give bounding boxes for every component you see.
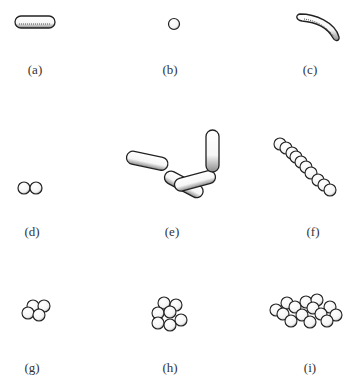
- bacillus-rod-icon: [15, 16, 55, 28]
- streptococci-chain-icon: [274, 138, 336, 196]
- streptobacilli-chain-icon: [125, 130, 219, 200]
- vibrio-curved-rod-icon: [297, 14, 339, 41]
- diplococci-icon: [18, 182, 42, 194]
- panel-label-f: (f): [293, 224, 333, 240]
- panel-label-a: (a): [15, 62, 55, 78]
- panel-label-c: (c): [290, 62, 330, 78]
- panel-label-d: (d): [12, 224, 52, 240]
- panel-label-b: (b): [150, 62, 190, 78]
- panel-label-e: (e): [152, 224, 192, 240]
- panel-label-h: (h): [150, 360, 190, 376]
- coccus-icon: [169, 19, 180, 30]
- staphylococci-cluster-icon: [270, 294, 342, 328]
- panel-label-g: (g): [12, 360, 52, 376]
- tetrad-icon: [22, 300, 50, 321]
- sarcina-icon: [152, 297, 187, 331]
- panel-label-i: (i): [290, 360, 330, 376]
- diagram-canvas: [0, 0, 360, 389]
